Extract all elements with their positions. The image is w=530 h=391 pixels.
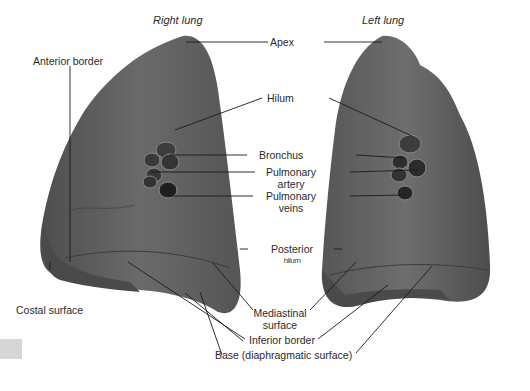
label-posterior: Posterior hilum <box>252 243 332 267</box>
label-pulmonary-artery-line2: artery <box>255 178 327 190</box>
label-pulmonary-artery: Pulmonary artery <box>255 166 327 190</box>
label-pulmonary-veins-line1: Pulmonary <box>255 190 327 202</box>
label-apex: Apex <box>270 36 294 48</box>
label-mediastinal-surface: Mediastinal surface <box>250 307 310 331</box>
label-base: Base (diaphragmatic surface) <box>215 349 352 361</box>
label-costal-surface: Costal surface <box>16 304 83 316</box>
label-pulmonary-veins: Pulmonary veins <box>255 190 327 214</box>
label-pulmonary-artery-line1: Pulmonary <box>255 166 327 178</box>
label-mediastinal-surface-line2: surface <box>250 319 310 331</box>
left-lung <box>322 36 490 307</box>
label-anterior-border: Anterior border <box>33 55 103 67</box>
label-mediastinal-surface-line1: Mediastinal <box>250 307 310 319</box>
label-bronchus: Bronchus <box>259 149 303 161</box>
label-posterior-line1: Posterior <box>252 243 332 255</box>
label-inferior-border: Inferior border <box>249 334 315 346</box>
gray-swatch <box>0 339 22 359</box>
label-posterior-line2: hilum <box>252 255 332 267</box>
label-pulmonary-veins-line2: veins <box>255 202 327 214</box>
label-hilum: Hilum <box>267 92 294 104</box>
right-lung-title: Right lung <box>153 14 203 26</box>
left-lung-title: Left lung <box>362 14 404 26</box>
